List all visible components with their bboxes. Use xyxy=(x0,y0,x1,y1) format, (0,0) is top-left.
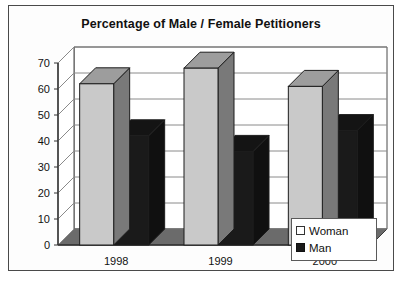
y-tick-label: 20 xyxy=(24,187,50,199)
chart-frame: Percentage of Male / Female Petitioners … xyxy=(8,5,394,271)
y-tick-label: 60 xyxy=(24,83,50,95)
bar-woman-1998 xyxy=(80,68,130,245)
legend-swatch-woman-icon xyxy=(296,226,305,235)
legend-item-woman: Woman xyxy=(296,222,372,239)
y-tick-label: 10 xyxy=(24,213,50,225)
y-tick-label: 30 xyxy=(24,161,50,173)
legend-label: Woman xyxy=(309,225,348,237)
legend-item-man: Man xyxy=(296,239,372,256)
y-tick-label: 40 xyxy=(24,135,50,147)
legend-label: Man xyxy=(309,242,331,254)
x-tick-label-1998: 1998 xyxy=(104,255,128,267)
y-tick-label: 0 xyxy=(24,239,50,251)
bar-woman-1999 xyxy=(184,52,234,245)
x-tick-label-1999: 1999 xyxy=(208,255,232,267)
legend-swatch-man-icon xyxy=(296,243,305,252)
y-tick-label: 70 xyxy=(24,57,50,69)
y-tick-label: 50 xyxy=(24,109,50,121)
chart-legend: WomanMan xyxy=(291,218,377,261)
